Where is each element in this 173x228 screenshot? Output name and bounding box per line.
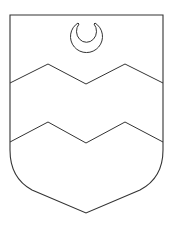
shield-figure	[0, 0, 173, 228]
shield-outline	[10, 15, 163, 213]
